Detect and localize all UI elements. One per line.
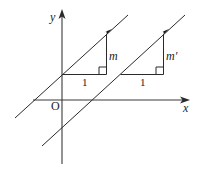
parallel-lines-diagram: y x O 1 m 1 m′ (0, 0, 202, 172)
y-axis (59, 9, 66, 164)
x-axis-label: x (182, 101, 189, 115)
upper-line (15, 15, 128, 118)
diagram-canvas: y x O 1 m 1 m′ (0, 0, 202, 172)
right-angle-marker-2 (156, 67, 164, 75)
right-angle-marker-1 (99, 67, 107, 75)
rise-label-m-prime: m′ (166, 49, 178, 63)
rise-label-m: m (109, 49, 118, 63)
y-axis-label: y (49, 10, 56, 24)
run-label-2: 1 (140, 76, 146, 88)
origin-label: O (51, 99, 60, 113)
run-label-1: 1 (82, 76, 88, 88)
